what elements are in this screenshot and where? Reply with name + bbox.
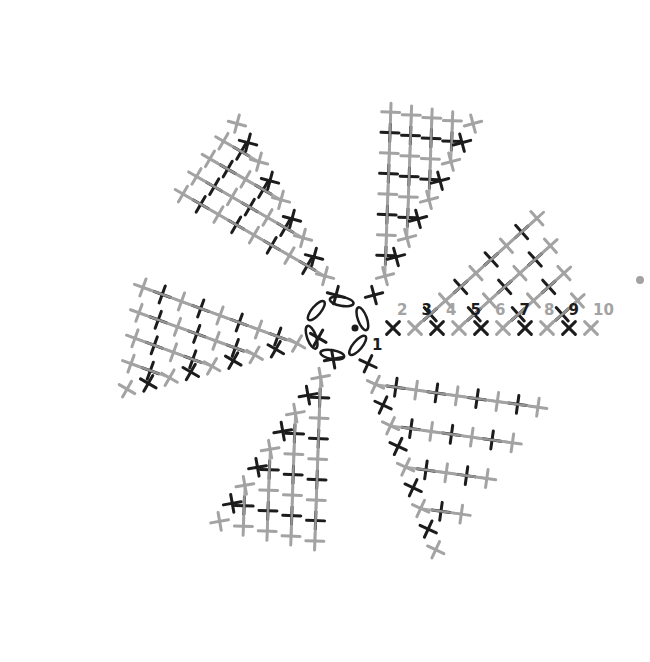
row-number-labels: 12345678910 — [372, 276, 644, 354]
sc-x-stitch — [365, 286, 382, 303]
wedge-right-upper — [387, 212, 598, 335]
chain-oval — [305, 299, 327, 323]
wedge-top-right — [365, 103, 481, 304]
wedge-bottom-left — [211, 350, 342, 550]
crochet-diagram: 12345678910 — [0, 0, 650, 662]
sc-x-stitch — [405, 480, 421, 496]
sc-x-stitch — [387, 322, 400, 335]
row-label-5: 5 — [471, 301, 481, 319]
row-yarn-line — [429, 118, 432, 200]
row-yarn-line — [267, 449, 270, 531]
sc-x-stitch — [431, 322, 444, 335]
row-label-3: 3 — [422, 301, 432, 319]
row-label-6: 6 — [495, 301, 505, 319]
sc-x-stitch — [249, 458, 267, 476]
row-yarn-line — [243, 485, 244, 526]
center-dot — [352, 325, 359, 332]
chain-oval — [303, 324, 320, 350]
sc-x-stitch — [390, 438, 406, 454]
magic-ring — [303, 295, 370, 361]
row-label-8: 8 — [544, 301, 554, 319]
row-yarn-line — [135, 338, 212, 366]
sc-x-stitch — [223, 494, 241, 512]
sc-x-stitch — [375, 397, 391, 413]
sc-x-stitch — [420, 521, 436, 537]
end-marker-dot — [636, 276, 644, 284]
row-label-7: 7 — [520, 301, 530, 319]
row-label-10: 10 — [593, 301, 614, 319]
sc-x-stitch — [563, 322, 576, 335]
row-yarn-line — [139, 313, 255, 355]
row-yarn-line — [196, 176, 303, 238]
row-label-4: 4 — [446, 301, 456, 319]
sc-x-stitch — [360, 356, 376, 372]
sc-x-stitch — [475, 322, 488, 335]
sc-x-stitch — [519, 322, 532, 335]
sc-x-stitch — [299, 386, 317, 404]
row-label-9: 9 — [569, 301, 579, 319]
row-label-1: 1 — [372, 336, 382, 354]
chain-oval — [347, 333, 369, 357]
row-yarn-line — [451, 121, 452, 162]
wedge-top-left — [175, 115, 345, 304]
row-yarn-line — [143, 287, 297, 343]
sc-x-stitch — [274, 422, 292, 440]
stitch-wedges — [119, 103, 597, 558]
wedge-left — [119, 279, 326, 397]
row-label-2: 2 — [397, 301, 407, 319]
wedge-bottom-right — [360, 356, 547, 558]
row-yarn-line — [131, 364, 170, 378]
